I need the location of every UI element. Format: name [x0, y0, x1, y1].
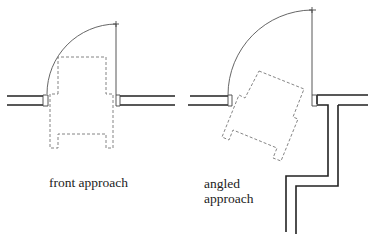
door-swing-arc [228, 10, 312, 95]
angled-approach-label: angled approach [204, 176, 253, 206]
left-wall [188, 95, 232, 106]
front-approach-plan [7, 21, 175, 148]
right-wall-corridor [286, 95, 368, 234]
wheelchair-outline [50, 57, 113, 148]
left-wall [7, 95, 48, 106]
right-wall [116, 95, 175, 106]
front-approach-label: front approach [49, 175, 128, 190]
wheelchair-outline [222, 71, 304, 161]
door-approach-diagram [0, 0, 375, 244]
